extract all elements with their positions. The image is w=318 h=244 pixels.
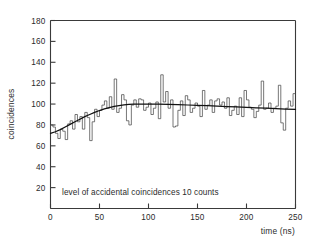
y-tick-label: 100 [31, 100, 46, 109]
y-tick-label: 160 [31, 37, 46, 46]
plot-canvas: 20406080100120140160180 050100150200250 … [0, 0, 318, 244]
x-tick-label: 250 [288, 213, 303, 222]
accidental-coincidences-annotation: level of accidental coincidences 10 coun… [62, 188, 219, 197]
x-tick-label: 100 [141, 213, 156, 222]
x-tick-label: 0 [48, 213, 53, 222]
x-axis-label: time (ns) [261, 226, 295, 236]
coincidence-time-spectrum-figure: 20406080100120140160180 050100150200250 … [0, 0, 318, 244]
y-tick-label: 140 [31, 58, 46, 67]
y-tick-label: 80 [36, 121, 46, 130]
y-axis-label: coincidences [6, 89, 16, 140]
y-tick-label: 120 [31, 79, 46, 88]
x-tick-label: 150 [190, 213, 205, 222]
y-tick-label: 60 [36, 142, 46, 151]
figure-background [0, 0, 318, 244]
x-tick-label: 50 [95, 213, 105, 222]
y-tick-label: 20 [36, 184, 46, 193]
x-tick-label: 200 [239, 213, 254, 222]
y-tick-label: 180 [31, 17, 46, 26]
y-tick-label: 40 [36, 163, 46, 172]
